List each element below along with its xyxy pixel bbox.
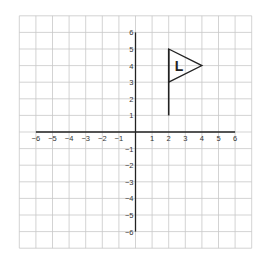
x-tick-label: 6 <box>233 134 237 143</box>
flag-label: L <box>175 58 184 74</box>
y-tick-label: −2 <box>125 161 134 170</box>
x-tick-label: 5 <box>216 134 220 143</box>
x-tick-label: −5 <box>48 134 57 143</box>
y-tick-label: 6 <box>129 28 133 37</box>
y-tick-label: 1 <box>129 111 133 120</box>
y-tick-label: −5 <box>125 211 134 220</box>
coordinate-grid: −6−5−4−3−2−1123456654321−1−2−3−4−5−6 L <box>0 0 264 271</box>
x-tick-label: 1 <box>150 134 154 143</box>
x-tick-label: 4 <box>200 134 204 143</box>
y-tick-label: 3 <box>129 78 133 87</box>
x-tick-label: −6 <box>32 134 41 143</box>
y-tick-label: −3 <box>125 178 134 187</box>
y-tick-label: 5 <box>129 45 133 54</box>
axes <box>36 32 235 231</box>
x-tick-label: −2 <box>98 134 107 143</box>
y-tick-label: 4 <box>129 62 133 71</box>
x-tick-label: 3 <box>183 134 187 143</box>
x-tick-label: −1 <box>115 134 124 143</box>
y-tick-label: −4 <box>125 194 134 203</box>
x-tick-label: −4 <box>65 134 74 143</box>
x-tick-label: 2 <box>167 134 171 143</box>
y-tick-label: −6 <box>125 228 134 237</box>
y-tick-label: 2 <box>129 95 133 104</box>
x-tick-label: −3 <box>81 134 90 143</box>
y-tick-label: −1 <box>125 145 134 154</box>
